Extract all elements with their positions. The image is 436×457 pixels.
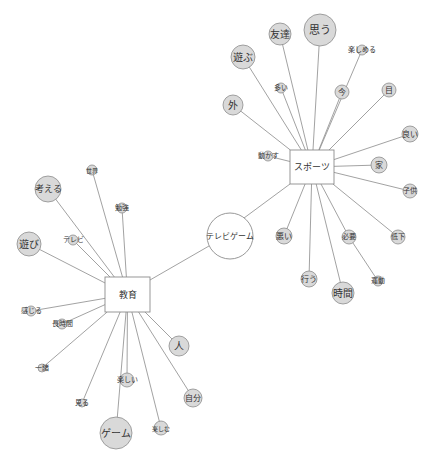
edge-omou <box>313 30 320 150</box>
word-node-ooi[interactable]: 多い <box>274 83 288 93</box>
node-label: 自分 <box>185 393 201 403</box>
word-node-jikan[interactable]: 時間 <box>332 282 354 304</box>
hub-label: 教育 <box>119 289 137 300</box>
hub-node-sports[interactable]: スポーツ <box>290 150 334 184</box>
hub-node-education[interactable]: 教育 <box>105 277 150 312</box>
word-node-undou[interactable]: 運動 <box>371 276 385 286</box>
edge-kanjiru <box>31 298 105 311</box>
edge-me <box>329 90 389 150</box>
node-label: 楽しむ <box>152 425 170 433</box>
node-label: 今 <box>338 87 346 97</box>
edge-soto <box>233 105 290 150</box>
node-label: 悪い <box>276 232 292 241</box>
edge-ima <box>319 92 342 150</box>
node-label: 目 <box>385 86 393 95</box>
word-node-asobi[interactable]: 遊び <box>17 232 41 256</box>
node-label: 遊ぶ <box>233 51 253 63</box>
edge-sekai <box>92 170 123 277</box>
node-label: 思う <box>309 24 331 37</box>
word-node-hitsuyou[interactable]: 必要 <box>342 230 356 244</box>
node-label: 世界 <box>86 167 98 175</box>
word-node-teika[interactable]: 低下 <box>391 230 405 244</box>
node-label: 楽しい <box>117 375 138 384</box>
word-node-asobu[interactable]: 遊ぶ <box>231 45 255 69</box>
word-node-tanoshimeru[interactable]: 楽しめる <box>348 45 376 55</box>
node-label: 運動 <box>371 276 385 285</box>
node-label: 楽しめる <box>348 45 376 54</box>
word-node-kodomo[interactable]: 子供 <box>403 184 417 198</box>
edge-ooi <box>281 88 305 150</box>
edge-okonau <box>309 184 312 279</box>
edge-warui <box>284 184 305 236</box>
node-label: 行う <box>301 274 317 284</box>
word-node-kangaeru[interactable]: 考える <box>35 176 62 202</box>
word-node-me[interactable]: 目 <box>382 83 396 97</box>
edge-benkyou <box>122 208 126 277</box>
edge-tvgame-sports <box>244 184 290 218</box>
word-node-okonau[interactable]: 行う <box>301 271 317 287</box>
co-occurrence-network: スポーツ教育テレビゲーム 思う友達遊ぶ楽しめる多い今目外良い動かす家子供低下悪い… <box>0 0 436 457</box>
node-label: 子供 <box>403 186 417 195</box>
edge-terebi <box>73 240 110 277</box>
word-node-ie[interactable]: 家 <box>371 157 387 173</box>
word-node-ugokasu[interactable]: 動かす <box>258 151 279 161</box>
edge-tvgame-education <box>150 246 209 280</box>
edge-tanoshimu <box>132 312 161 428</box>
word-node-ima[interactable]: 今 <box>335 85 349 99</box>
node-label: テレビ <box>63 235 84 244</box>
node-label: 一緒 <box>35 363 49 372</box>
node-label: 時間 <box>333 288 353 299</box>
node-label: 良い <box>402 129 418 139</box>
word-node-kanjiru[interactable]: 感じる <box>21 306 42 316</box>
hub-label: スポーツ <box>294 162 330 172</box>
edge-yoi <box>334 134 410 160</box>
word-node-miru[interactable]: 見る <box>75 399 89 407</box>
word-node-yoi[interactable]: 良い <box>402 126 418 142</box>
word-node-hito[interactable]: 人 <box>169 336 189 356</box>
node-label: 感じる <box>21 306 42 315</box>
edge-kodomo <box>334 172 410 191</box>
node-label: 低下 <box>391 232 405 241</box>
edge-miru <box>82 312 120 403</box>
node-label: 考える <box>35 184 62 194</box>
word-node-choujikan[interactable]: 長時間 <box>52 319 73 329</box>
hub-node-tvgame[interactable]: テレビゲーム <box>206 213 254 259</box>
word-node-sekai[interactable]: 世界 <box>86 165 98 175</box>
node-label: ゲーム <box>101 428 131 439</box>
word-node-soto[interactable]: 外 <box>223 95 243 115</box>
edge-kangaeru <box>48 189 114 277</box>
node-label: 見る <box>75 399 89 407</box>
edge-hitsuyou <box>321 184 349 237</box>
node-label: 遊び <box>19 238 39 250</box>
node-label: 必要 <box>342 232 356 241</box>
node-label: 勉強 <box>115 203 129 212</box>
word-node-tanoshimu[interactable]: 楽しむ <box>152 421 170 435</box>
node-label: 長時間 <box>52 320 73 328</box>
hub-label: テレビゲーム <box>206 231 254 241</box>
word-node-warui[interactable]: 悪い <box>276 228 292 244</box>
node-label: 人 <box>174 341 184 352</box>
word-node-terebi[interactable]: テレビ <box>63 235 84 245</box>
word-node-omou[interactable]: 思う <box>304 14 336 46</box>
node-label: 友達 <box>270 28 290 40</box>
node-label: 家 <box>375 160 383 170</box>
word-node-tomodachi[interactable]: 友達 <box>269 23 291 45</box>
edge-geemu <box>116 312 126 433</box>
word-node-issho[interactable]: 一緒 <box>35 363 49 372</box>
hubs-layer: スポーツ教育テレビゲーム <box>105 150 334 312</box>
node-label: 多い <box>274 83 288 92</box>
edge-undou <box>349 237 378 281</box>
node-label: 動かす <box>258 151 279 160</box>
word-node-benkyou[interactable]: 勉強 <box>115 203 129 213</box>
word-node-geemu[interactable]: ゲーム <box>100 417 132 449</box>
edge-teika <box>333 184 398 237</box>
word-node-jibun[interactable]: 自分 <box>184 389 202 407</box>
node-label: 外 <box>228 100 238 111</box>
edge-tanoshimeru <box>319 50 362 150</box>
edge-jibun <box>139 312 193 398</box>
